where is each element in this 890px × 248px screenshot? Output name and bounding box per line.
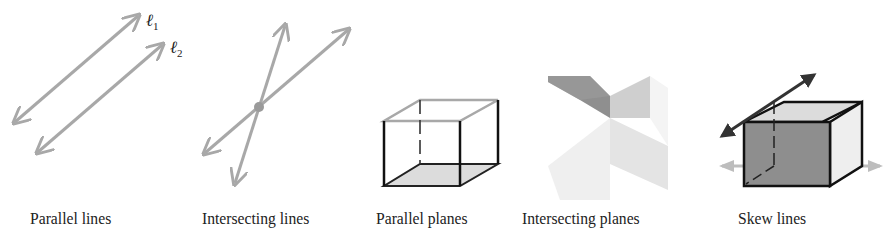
line-l1 xyxy=(15,16,138,122)
intersecting-planes-figure xyxy=(548,76,668,200)
parallel-planes-figure xyxy=(384,100,498,186)
parallel-lines-figure: ℓ1 ℓ2 xyxy=(15,11,183,152)
caption-intersecting-lines: Intersecting lines xyxy=(202,209,309,229)
caption-parallel-lines: Parallel lines xyxy=(30,209,111,229)
bottom-plane xyxy=(384,164,498,186)
skew-lines-figure xyxy=(722,75,880,186)
top-plane xyxy=(384,100,498,121)
caption-parallel-planes: Parallel planes xyxy=(376,209,468,229)
caption-intersecting-planes: Intersecting planes xyxy=(522,209,640,229)
label-l1: ℓ1 xyxy=(146,11,159,32)
diagram-canvas: ℓ1 ℓ2 xyxy=(0,0,890,210)
plane-b-front xyxy=(548,118,610,200)
intersection-point xyxy=(254,102,264,112)
line-l2 xyxy=(38,45,162,152)
label-l2: ℓ2 xyxy=(170,38,183,59)
plane-b-back xyxy=(610,76,650,118)
intersecting-lines-figure xyxy=(205,26,348,183)
caption-skew-lines: Skew lines xyxy=(738,209,806,229)
